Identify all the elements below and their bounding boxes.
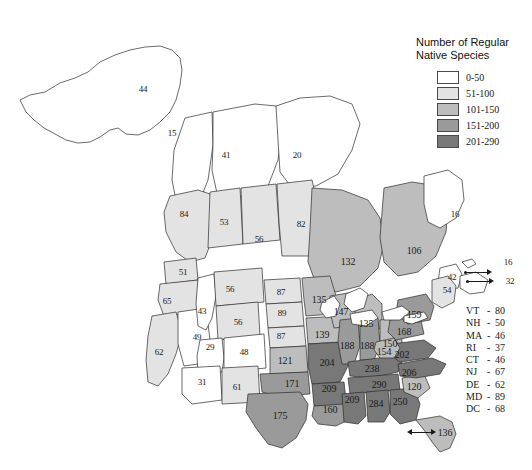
state-dash: - [487, 305, 495, 317]
state-value-row: DE-62 [466, 379, 505, 391]
state-abbreviation: RI [466, 342, 487, 354]
region-value-label: 51 [179, 267, 188, 277]
region-value-label: 49 [193, 332, 202, 342]
state-value: 46 [495, 354, 505, 366]
legend-swatch [437, 71, 459, 84]
state-abbreviation: DC [466, 403, 487, 415]
region-value-label: 171 [285, 378, 299, 389]
state-dash: - [487, 330, 495, 342]
state-value: 46 [495, 330, 505, 342]
region-value-label: 135 [312, 294, 326, 305]
region-value-label: 160 [323, 404, 337, 415]
legend-row: 201-290 [437, 134, 531, 149]
state-abbreviation: NH [466, 317, 487, 329]
legend-label: 151-200 [466, 120, 499, 131]
legend-row: 0-50 [437, 70, 531, 85]
state-dash: - [487, 379, 495, 391]
region-value-label: 89 [278, 308, 287, 318]
state-value: 50 [495, 317, 505, 329]
region-value-label: 202 [395, 349, 409, 360]
region-value-label: 159 [407, 309, 421, 320]
region-value-label: 139 [315, 329, 329, 340]
state-dash: - [487, 342, 495, 354]
state-abbreviation: CT [466, 354, 487, 366]
map-region [462, 259, 476, 268]
state-value: 89 [495, 391, 505, 403]
legend-row: 151-200 [437, 118, 531, 133]
region-value-label: 65 [163, 296, 172, 306]
legend-row: 101-150 [437, 102, 531, 117]
state-value-row: MD-89 [466, 391, 505, 403]
region-value-label: 175 [273, 410, 287, 421]
region-value-label: 20 [293, 150, 302, 160]
region-value-label: 147 [334, 306, 348, 317]
small-states-value-list: VT-80NH-50MA-46RI-37CT-46NJ-67DE-62MD-89… [466, 305, 505, 416]
state-dash: - [487, 354, 495, 366]
region-value-label: 32 [506, 276, 515, 286]
region-value-label: 29 [206, 342, 215, 352]
state-value: 68 [495, 403, 505, 415]
state-abbreviation: DE [466, 379, 487, 391]
region-value-label: 31 [198, 377, 207, 387]
map-region [276, 96, 360, 188]
region-value-label: 56 [234, 317, 243, 327]
state-dash: - [487, 391, 495, 403]
map-figure: 4415412084535682132106164216325451656249… [0, 0, 532, 470]
region-value-label: 106 [407, 245, 421, 256]
region-value-label: 15 [168, 128, 177, 138]
legend-label: 201-290 [466, 136, 499, 147]
state-value-row: MA-46 [466, 330, 505, 342]
region-value-label: 120 [407, 381, 421, 392]
map-region [164, 190, 214, 262]
legend-label: 0-50 [466, 72, 484, 83]
region-value-label: 209 [345, 394, 359, 405]
region-value-label: 290 [372, 379, 386, 390]
legend-swatch [437, 119, 459, 132]
region-value-label: 135 [359, 318, 373, 329]
region-value-label: 61 [233, 382, 242, 392]
region-value-label: 188 [360, 340, 374, 351]
map-region [214, 268, 264, 306]
region-value-label: 132 [341, 256, 355, 267]
region-value-label: 250 [393, 396, 407, 407]
region-value-label: 48 [240, 347, 249, 357]
map-region [268, 326, 306, 348]
region-value-label: 41 [222, 150, 231, 160]
region-value-label: 87 [277, 287, 286, 297]
region-value-label: 204 [320, 357, 334, 368]
region-value-label: 188 [340, 340, 354, 351]
region-value-label: 238 [365, 363, 379, 374]
legend-title: Number of Regular Native Species [416, 36, 531, 62]
region-value-label: 209 [322, 383, 336, 394]
legend: Number of Regular Native Species 0-5051-… [413, 36, 531, 150]
state-value: 80 [495, 305, 505, 317]
region-value-label: 43 [198, 306, 207, 316]
state-dash: - [487, 403, 495, 415]
legend-row: 51-100 [437, 86, 531, 101]
state-value-row: DC-68 [466, 403, 505, 415]
state-abbreviation: NJ [466, 366, 487, 378]
state-value: 67 [495, 366, 505, 378]
region-value-label: 56 [226, 284, 235, 294]
region-value-label: 44 [139, 84, 148, 94]
region-value-label: 53 [220, 217, 229, 227]
region-value-label: 136 [438, 427, 452, 438]
state-value: 37 [495, 342, 505, 354]
region-value-label: 84 [180, 209, 189, 219]
region-value-label: 62 [155, 347, 164, 357]
state-abbreviation: MA [466, 330, 487, 342]
legend-label: 101-150 [466, 104, 499, 115]
legend-swatch [437, 135, 459, 148]
region-value-label: 16 [504, 257, 513, 267]
state-abbreviation: VT [466, 305, 487, 317]
state-value-row: CT-46 [466, 354, 505, 366]
state-dash: - [487, 366, 495, 378]
map-region [20, 46, 182, 143]
legend-swatch [437, 87, 459, 100]
region-value-label: 42 [448, 272, 457, 282]
region-value-label: 87 [277, 331, 286, 341]
state-dash: - [487, 317, 495, 329]
state-value-row: RI-37 [466, 342, 505, 354]
state-value-row: NH-50 [466, 317, 505, 329]
region-value-label: 16 [451, 209, 460, 219]
